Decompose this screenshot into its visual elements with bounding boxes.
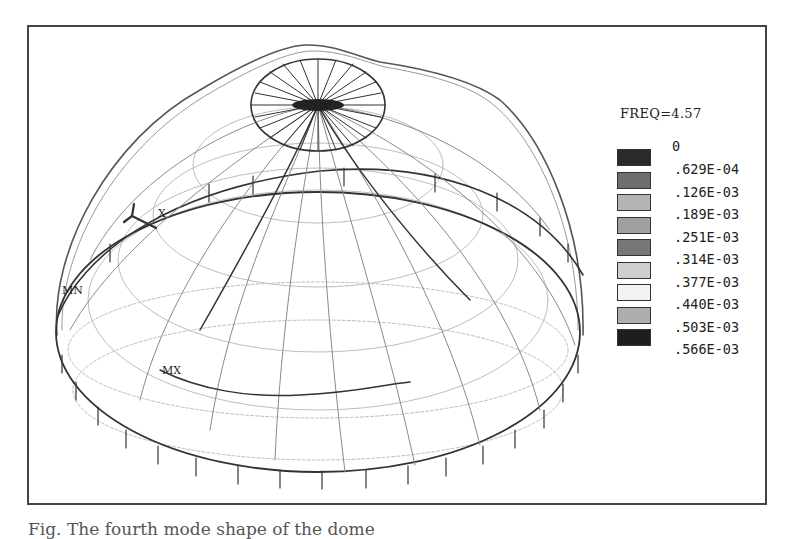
- legend-swatch: [617, 284, 651, 301]
- legend-swatch: [617, 262, 651, 279]
- frequency-label: FREQ=4.57: [620, 106, 702, 121]
- legend-row: .189E-03: [617, 194, 767, 217]
- legend-swatch: [617, 307, 651, 324]
- axis-x-label: X: [158, 207, 166, 220]
- legend-swatch: [617, 217, 651, 234]
- legend-swatch: [617, 172, 651, 189]
- legend-row: .566E-03: [617, 329, 767, 352]
- min-node-label: MN: [62, 284, 83, 297]
- legend-swatch: [617, 239, 651, 256]
- legend-swatch: [617, 329, 651, 346]
- legend-swatch: [617, 149, 651, 166]
- legend-level: .566E-03: [674, 341, 739, 357]
- legend-row: .314E-03: [617, 239, 767, 262]
- legend-row: .126E-03: [617, 172, 767, 195]
- legend-row: .503E-03: [617, 307, 767, 330]
- legend-row: .440E-03: [617, 284, 767, 307]
- legend-row: .377E-03: [617, 262, 767, 285]
- max-node-label: MX: [162, 364, 181, 377]
- figure-caption: Fig. The fourth mode shape of the dome: [28, 519, 375, 539]
- legend-swatch: [617, 194, 651, 211]
- legend-row: .629E-04: [617, 149, 767, 172]
- legend-row: .251E-03: [617, 217, 767, 240]
